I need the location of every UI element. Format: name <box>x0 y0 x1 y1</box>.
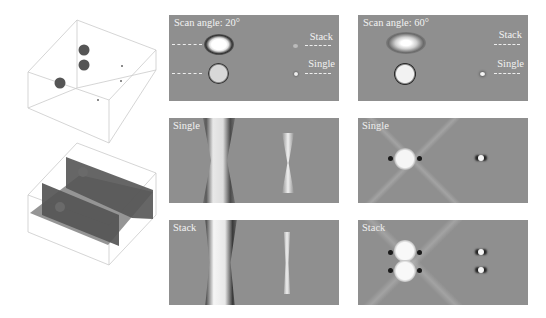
panel-scan-60: Scan angle: 60° Stack Single <box>358 15 528 101</box>
3d-scene-slices <box>0 140 165 310</box>
single-label: Single <box>497 58 524 69</box>
panel-label: Single <box>173 120 200 131</box>
sphere-2 <box>79 60 90 71</box>
panel-scan-20: Scan angle: 20° Stack Single <box>169 15 339 101</box>
panel-single-20: Single <box>169 118 339 203</box>
panel-label: Scan angle: 60° <box>363 17 429 28</box>
panel-label: Stack <box>173 222 196 233</box>
panel-single-60: Single <box>358 118 528 203</box>
3d-scene-spheres <box>0 0 165 150</box>
sphere-1 <box>79 45 90 56</box>
panel-label: Scan angle: 20° <box>174 17 240 28</box>
panel-stack-20: Stack <box>169 220 339 305</box>
stack-label: Stack <box>310 31 333 42</box>
stack-label: Stack <box>499 29 522 40</box>
panel-stack-60: Stack <box>358 220 528 305</box>
single-label: Single <box>308 58 335 69</box>
sphere-3 <box>55 78 66 89</box>
